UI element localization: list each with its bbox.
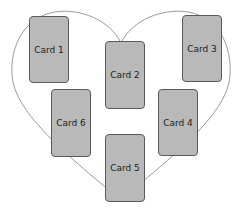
card-label: Card 6 [56, 118, 86, 128]
card-label: Card 3 [187, 44, 217, 54]
card-label: Card 4 [163, 118, 193, 128]
card-label: Card 1 [34, 45, 64, 55]
card-4: Card 4 [158, 89, 198, 156]
card-6: Card 6 [51, 89, 91, 157]
card-label: Card 2 [110, 70, 140, 80]
card-1: Card 1 [29, 16, 69, 83]
card-5: Card 5 [105, 134, 145, 202]
card-label: Card 5 [110, 163, 140, 173]
card-2: Card 2 [105, 41, 145, 109]
card-3: Card 3 [182, 15, 222, 82]
